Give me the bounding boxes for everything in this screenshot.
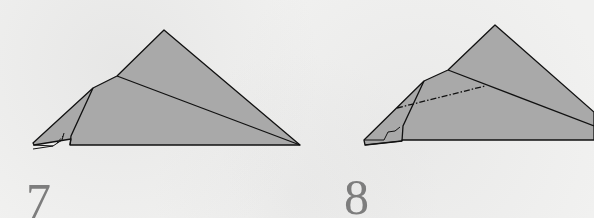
step-7-figure [33,30,300,149]
beak-edge [33,146,53,149]
step-8-figure [364,25,594,145]
folded-paper-shape [33,30,300,145]
folded-paper-shape [364,25,594,145]
step-number-7: 7 [26,176,51,218]
origami-diagram [0,0,594,218]
step-number-8: 8 [344,172,369,218]
